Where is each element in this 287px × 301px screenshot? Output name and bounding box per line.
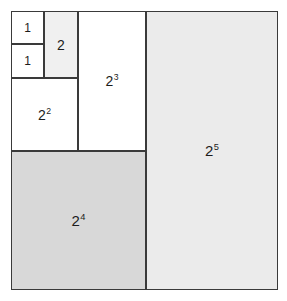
region-two: 2 [44,11,78,78]
exponent-3: 3 [114,72,119,82]
region-label-two-cubed: 23 [105,74,118,88]
region-label-one-top: 1 [24,22,31,34]
region-label-two-fourth: 24 [71,213,85,228]
region-one-top: 1 [11,11,44,44]
region-label-two: 2 [57,38,65,52]
powers-of-two-diagram: 25 24 23 22 2 1 1 [0,0,287,301]
region-label-two-fifth: 25 [205,143,219,158]
region-two-squared: 22 [11,78,78,151]
region-two-cubed: 23 [78,11,146,151]
exponent-4: 4 [80,212,85,222]
exponent-5: 5 [214,142,219,152]
region-one-bottom: 1 [11,44,44,78]
exponent-2: 2 [46,106,51,116]
region-two-fourth: 24 [11,151,146,290]
region-two-fifth: 25 [146,11,278,290]
region-label-two-squared: 22 [38,108,51,122]
region-label-one-bottom: 1 [24,55,31,67]
